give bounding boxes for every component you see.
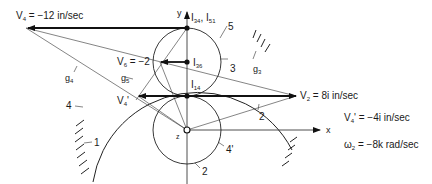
- point-i14: [184, 93, 189, 98]
- i36-label: I36: [193, 58, 202, 71]
- ground-hatch-bottom-right: [282, 137, 297, 166]
- line-2: [187, 96, 296, 130]
- point-i34: [184, 25, 189, 30]
- g4-label: g4: [65, 73, 73, 86]
- line-v4p-to-z: [138, 96, 187, 130]
- link-4prime-label: 4': [226, 145, 233, 155]
- ground-hatch-left: [75, 120, 89, 174]
- v2-label: V2 = 8i in/sec: [300, 91, 358, 104]
- v4-prime-label: V4': [117, 96, 129, 109]
- g3-label: g3: [253, 64, 261, 77]
- mechanism-diagram: [0, 0, 432, 184]
- g5-label: g5: [121, 73, 129, 86]
- link-2-label-upper: 2: [259, 112, 265, 122]
- pivot-z: [184, 127, 190, 133]
- given-omega2: ω2 = −8k rad/sec: [344, 140, 419, 153]
- line-g4: [26, 28, 187, 130]
- v4-label: V4 = −12 in/sec: [16, 11, 83, 24]
- link-4-label: 4: [66, 101, 72, 111]
- given-v4-prime: V4' = −4i in/sec: [344, 113, 410, 126]
- ground-hatch-top-right: [253, 30, 270, 52]
- x-axis-label: x: [326, 125, 331, 135]
- i14-label: I14: [191, 80, 200, 93]
- link-1-label: 1: [94, 138, 100, 148]
- origin-z-label: z: [176, 132, 180, 142]
- link-2-label-lower: 2: [202, 167, 208, 177]
- i34-i51-label: I34, I51: [191, 13, 216, 26]
- link-3-label: 3: [230, 64, 236, 74]
- y-axis-label: y: [177, 8, 182, 18]
- v6-label: V6 = −2: [117, 57, 150, 70]
- link-5-label: 5: [228, 22, 234, 32]
- point-i36: [184, 59, 189, 64]
